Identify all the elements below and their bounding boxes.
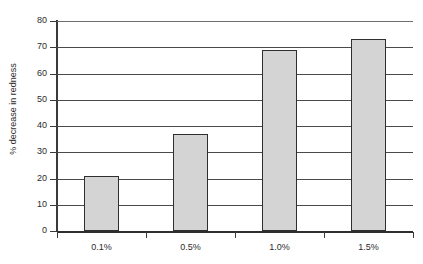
bar xyxy=(84,176,119,231)
y-axis-tick-label: 70 xyxy=(27,42,47,51)
y-axis-tick-label: 60 xyxy=(27,69,47,78)
x-axis-tick-mark xyxy=(324,232,325,238)
x-axis-tick-mark xyxy=(413,232,414,238)
y-axis-tick-mark xyxy=(50,126,57,127)
y-axis-tick-label: 0 xyxy=(27,226,47,235)
y-axis-tick-mark xyxy=(50,152,57,153)
y-axis-tick-mark xyxy=(50,21,57,22)
y-axis-tick-mark xyxy=(50,100,57,101)
y-axis-tick-label: 50 xyxy=(27,95,47,104)
bar-chart-figure: % decrease in redness 01020304050607080 … xyxy=(0,0,423,264)
bar xyxy=(173,134,208,231)
x-axis-tick-mark xyxy=(235,232,236,238)
y-axis-tick-label: 20 xyxy=(27,174,47,183)
y-axis-tick-labels: 01020304050607080 xyxy=(25,0,47,264)
y-axis-tick-label: 10 xyxy=(27,200,47,209)
y-axis-tick-mark xyxy=(50,74,57,75)
x-axis-tick-label: 0.5% xyxy=(156,242,226,252)
plot-area xyxy=(57,21,413,231)
y-axis-tick-label: 30 xyxy=(27,147,47,156)
x-axis-tick-label: 1.5% xyxy=(334,242,404,252)
bar xyxy=(351,39,386,231)
y-axis-tick-label: 80 xyxy=(27,16,47,25)
x-axis-tick-mark xyxy=(57,232,58,238)
bar xyxy=(262,50,297,231)
x-axis-tick-mark xyxy=(146,232,147,238)
x-axis-tick-label: 1.0% xyxy=(245,242,315,252)
y-axis-tick-mark xyxy=(50,205,57,206)
y-axis-tick-label: 40 xyxy=(27,121,47,130)
x-axis-tick-label: 0.1% xyxy=(67,242,137,252)
y-axis-title: % decrease in redness xyxy=(8,34,18,184)
y-axis-tick-mark xyxy=(50,231,57,232)
y-axis-tick-mark xyxy=(50,47,57,48)
gridline xyxy=(57,21,413,22)
y-axis-tick-mark xyxy=(50,179,57,180)
